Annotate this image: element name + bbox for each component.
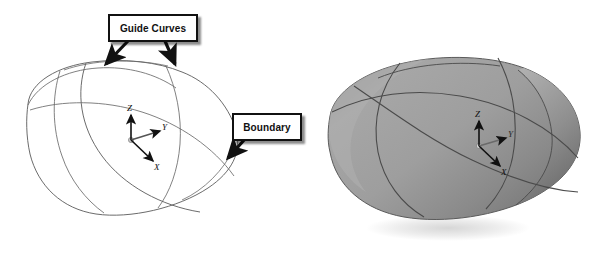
shaded-panel: Z Y X: [328, 57, 580, 241]
callout-boundary-label: Boundary: [243, 122, 290, 133]
callout-guide-curves-label: Guide Curves: [120, 23, 186, 34]
wireframe-panel: Z Y X: [27, 41, 245, 215]
callout-guide-curves: Guide Curves: [108, 14, 198, 42]
x-axis-label: X: [153, 162, 160, 172]
callout-boundary: Boundary: [232, 113, 302, 141]
x-axis-label: X: [500, 167, 507, 177]
figure-canvas: Z Y X: [0, 0, 616, 255]
boundary-surface-figure: Z Y X: [0, 0, 616, 255]
guide-curves-arrow-right: [165, 41, 175, 64]
